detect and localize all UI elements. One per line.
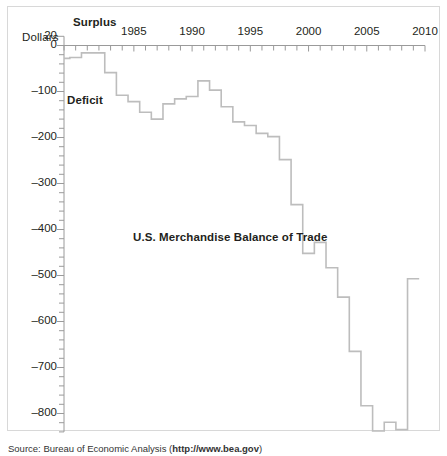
- plot-area: [0, 0, 447, 435]
- y-tick-label--400: –400: [11, 222, 57, 234]
- y-tick-label--200: –200: [11, 130, 57, 142]
- x-tick-label-2010: 2010: [405, 25, 445, 37]
- y-tick-label--600: –600: [11, 314, 57, 326]
- x-tick-label-1985: 1985: [114, 25, 154, 37]
- source-link: http://www.bea.gov: [172, 443, 259, 454]
- y-tick-label--300: –300: [11, 176, 57, 188]
- x-tick-label-2000: 2000: [289, 25, 329, 37]
- y-tick-label--500: –500: [11, 268, 57, 280]
- x-tick-label-2005: 2005: [347, 25, 387, 37]
- surplus-annotation: Surplus: [73, 16, 117, 28]
- y-tick-label--800: –800: [11, 406, 57, 418]
- deficit-annotation: Deficit: [67, 94, 103, 106]
- x-tick-label-1995: 1995: [230, 25, 270, 37]
- merchandise-balance-of-trade-chart: [0, 0, 447, 435]
- source-prefix: Source: Bureau of Economic Analysis (: [8, 443, 172, 454]
- source-suffix: ): [259, 443, 262, 454]
- x-tick-label-1990: 1990: [172, 25, 212, 37]
- source-note: Source: Bureau of Economic Analysis (htt…: [8, 443, 262, 454]
- figure-container: Dollars Surplus Deficit U.S. Merchandise…: [0, 0, 447, 456]
- y-tick-label--700: –700: [11, 360, 57, 372]
- y-tick-label-0: 0: [11, 38, 57, 50]
- chart-title: U.S. Merchandise Balance of Trade: [133, 231, 327, 243]
- y-tick-label--100: –100: [11, 84, 57, 96]
